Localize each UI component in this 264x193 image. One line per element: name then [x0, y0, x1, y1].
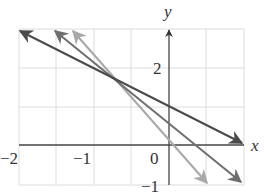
x-tick-neg2: −2 — [0, 149, 18, 168]
y-axis-label: y — [162, 2, 172, 21]
y-tick-2: 2 — [153, 59, 162, 78]
x-tick-neg1: −1 — [73, 149, 91, 168]
x-tick-0: 0 — [150, 149, 159, 168]
y-tick-neg1: −1 — [141, 177, 159, 193]
grid — [19, 29, 244, 185]
x-axis-label: x — [250, 136, 259, 155]
line-chart: y x −2 −1 0 2 −1 — [0, 0, 264, 193]
